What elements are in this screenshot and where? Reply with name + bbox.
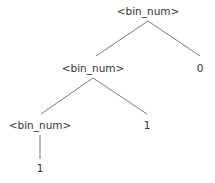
node-leaf-one-bottom: 1 — [37, 162, 44, 174]
edge-root-to-left — [96, 21, 148, 56]
node-low-bin-num: <bin_num> — [9, 119, 72, 131]
node-root-bin-num: <bin_num> — [117, 5, 180, 17]
edge-root-to-right — [148, 21, 200, 56]
edge-mid-to-left — [41, 78, 93, 114]
edge-mid-to-right — [93, 78, 147, 114]
node-leaf-one-right: 1 — [144, 119, 151, 131]
node-leaf-zero: 0 — [197, 62, 204, 74]
tree-edges — [0, 0, 215, 183]
node-mid-bin-num: <bin_num> — [62, 62, 125, 74]
parse-tree-diagram: <bin_num> <bin_num> 0 <bin_num> 1 1 — [0, 0, 215, 183]
